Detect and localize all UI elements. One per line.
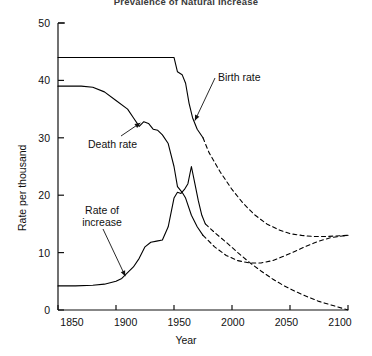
- x-tick-label-1950: 1950: [168, 316, 191, 328]
- data-series: [58, 57, 348, 310]
- series-rate-of-increase-projected: [205, 224, 348, 310]
- rate-of-increase-annotation: Rate of increase: [63, 205, 141, 228]
- series-death-rate-projected: [203, 235, 348, 263]
- rate-of-increase-line-2: increase: [82, 216, 122, 228]
- x-tick-label-1900: 1900: [114, 316, 137, 328]
- y-tick-label-20: 20: [26, 189, 50, 201]
- series-birth-rate: [58, 57, 203, 137]
- rate-of-increase-line-1: Rate of: [85, 204, 119, 216]
- plot-area: [0, 0, 372, 356]
- y-tick-label-50: 50: [26, 17, 50, 29]
- x-tick-label-2100: 2100: [328, 316, 351, 328]
- x-axis-title: Year: [0, 334, 372, 346]
- arrow-rate-of-increase: [103, 229, 125, 276]
- x-tick-label-2000: 2000: [221, 316, 244, 328]
- y-tick-label-40: 40: [26, 74, 50, 86]
- y-axis-title: Rate per thousand: [16, 145, 28, 231]
- series-birth-rate-projected: [203, 138, 348, 237]
- natural-increase-chart: Prevalence of Natural Increase 0 10 20 3…: [0, 0, 372, 356]
- y-tick-label-10: 10: [26, 247, 50, 259]
- arrow-death-rate: [121, 123, 140, 136]
- x-tick-label-1850: 1850: [60, 316, 83, 328]
- x-tick-label-2050: 2050: [275, 316, 298, 328]
- tick-marks: [58, 23, 348, 310]
- birth-rate-annotation: Birth rate: [218, 72, 261, 84]
- y-tick-label-0: 0: [26, 304, 50, 316]
- annotation-arrows: [103, 78, 215, 276]
- death-rate-annotation: Death rate: [88, 139, 137, 151]
- arrow-birth-rate: [195, 78, 215, 121]
- axes: [58, 23, 348, 310]
- y-tick-label-30: 30: [26, 132, 50, 144]
